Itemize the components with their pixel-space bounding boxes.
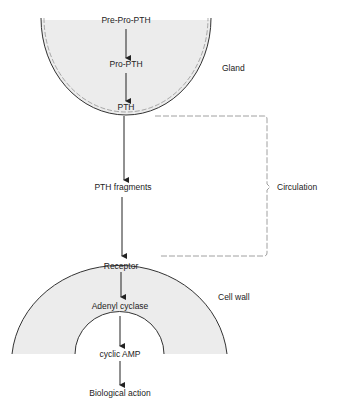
label-pth-fragments: PTH fragments [94,183,151,192]
label-circulation: Circulation [277,183,317,192]
label-cell-wall: Cell wall [218,293,250,302]
label-gland: Gland [222,64,245,73]
label-biological-action: Biological action [89,389,150,398]
label-pro-pth: Pro-PTH [109,60,142,69]
label-receptor: Receptor [104,262,139,271]
circulation-bracket [155,116,270,256]
label-cyclic-amp: cyclic AMP [99,350,140,359]
pth-pathway-diagram [0,0,338,408]
label-pre-pro-pth: Pre-Pro-PTH [101,16,150,25]
label-adenyl-cyclase: Adenyl cyclase [92,302,149,311]
label-pth: PTH [118,103,135,112]
